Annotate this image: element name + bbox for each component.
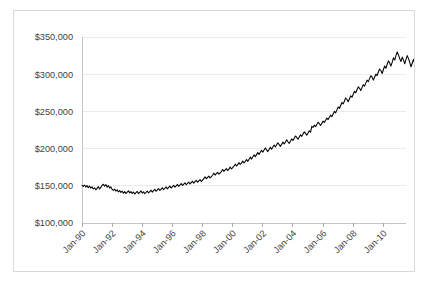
x-axis-tick-label: Jan-10: [362, 228, 389, 255]
y-axis-tick-label: $150,000: [35, 181, 73, 191]
gridlines: [82, 37, 406, 223]
x-axis-tick-label: Jan-94: [121, 228, 148, 255]
x-axis-tick-label: Jan-02: [241, 228, 268, 255]
y-axis-tick-label: $250,000: [35, 107, 73, 117]
x-axis-tick-label: Jan-96: [151, 228, 178, 255]
series-line-home-price-index: [82, 52, 414, 194]
x-axis-tick-labels: Jan-90Jan-92Jan-94Jan-96Jan-98Jan-00Jan-…: [60, 228, 388, 255]
chart-frame: $350,000$300,000$250,000$200,000$150,000…: [13, 10, 415, 272]
x-axis-tick-label: Jan-98: [181, 228, 208, 255]
y-axis-tick-labels: $350,000$300,000$250,000$200,000$150,000…: [35, 32, 73, 228]
x-axis-tick-label: Jan-90: [60, 228, 87, 255]
y-axis-tick-label: $100,000: [35, 218, 73, 228]
x-axis-tick-label: Jan-04: [271, 228, 298, 255]
x-axis-tick-label: Jan-92: [91, 228, 118, 255]
x-axis-tick-label: Jan-08: [332, 228, 359, 255]
y-axis-tick-label: $350,000: [35, 32, 73, 42]
y-axis-tick-label: $300,000: [35, 70, 73, 80]
x-axis-tickmarks: [82, 223, 383, 227]
line-chart: $350,000$300,000$250,000$200,000$150,000…: [14, 11, 414, 271]
x-axis-tick-label: Jan-06: [302, 228, 329, 255]
x-axis-tick-label: Jan-00: [211, 228, 238, 255]
y-axis-tick-label: $200,000: [35, 144, 73, 154]
